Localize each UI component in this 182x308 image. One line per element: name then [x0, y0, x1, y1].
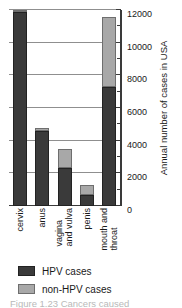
x-axis-label: cervix	[9, 208, 31, 260]
x-axis-label: mouth andthroat	[98, 208, 120, 260]
y-axis-tick	[117, 123, 121, 124]
y-axis-tick	[117, 156, 121, 157]
x-axis-label-text: mouth andthroat	[99, 208, 119, 251]
x-axis-label: penis	[76, 208, 98, 260]
y-axis-tick	[116, 205, 121, 206]
bar-segment	[13, 10, 27, 12]
figure-caption-text: Figure 1.23 Cancers caused	[10, 298, 129, 308]
y-axis-tick	[116, 172, 121, 173]
bar-segment	[102, 87, 116, 206]
bar-mouth-and-throat	[102, 17, 116, 206]
bar-vagina-and-vulva	[58, 149, 72, 206]
figure-caption: Figure 1.23 Cancers caused	[10, 298, 180, 308]
legend-label: non-HPV cases	[42, 284, 111, 295]
bar-segment	[35, 131, 49, 206]
x-axis-label: anus	[31, 208, 53, 260]
chart-figure: 020004000600080001000012000 Annual numbe…	[0, 0, 182, 308]
legend-swatch	[18, 266, 35, 276]
y-axis-tick	[116, 42, 121, 43]
bar-segment	[13, 12, 27, 206]
legend-item: HPV cases	[18, 263, 168, 279]
legend: HPV casesnon-HPV cases	[18, 263, 168, 299]
bar-segment	[102, 17, 116, 87]
bars-group	[9, 10, 120, 206]
bar-segment	[80, 195, 94, 206]
y-axis-tick	[117, 91, 121, 92]
x-axis-label-text: penis	[82, 208, 92, 230]
y-axis-tick	[117, 58, 121, 59]
x-axis-label-text: cervix	[15, 208, 25, 232]
bar-cervix	[13, 10, 27, 206]
bar-penis	[80, 185, 94, 206]
y-axis: 020004000600080001000012000	[120, 10, 122, 206]
bar-segment	[58, 168, 72, 206]
y-axis-tick	[116, 140, 121, 141]
plot-area	[9, 10, 120, 206]
y-axis-tick	[116, 74, 121, 75]
y-axis-tick	[116, 9, 121, 10]
x-axis-label-text: vaginaand vulva	[54, 208, 74, 247]
y-axis-tick	[117, 189, 121, 190]
y-axis-tick	[116, 107, 121, 108]
bar-segment	[80, 185, 94, 195]
bar-segment	[58, 149, 72, 169]
y-axis-tick	[117, 25, 121, 26]
x-axis-label-text: anus	[37, 208, 47, 228]
bar-anus	[35, 128, 49, 206]
y-axis-title-text: Annual number of cases in USA	[158, 10, 170, 206]
x-axis-labels: cervixanusvaginaand vulvapenismouth andt…	[9, 208, 120, 260]
legend-swatch	[18, 284, 35, 294]
bar-segment	[35, 128, 49, 131]
x-axis-label: vaginaand vulva	[53, 208, 75, 260]
legend-item: non-HPV cases	[18, 281, 168, 297]
legend-label: HPV cases	[42, 266, 91, 277]
